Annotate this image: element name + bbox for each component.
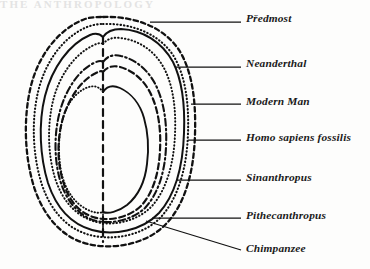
contour-modern-man [41, 29, 185, 232]
label-chimpanzee: Chimpanzee [246, 242, 306, 254]
contour-chimpanzee-right [103, 86, 148, 212]
contour-group [26, 17, 195, 246]
label-homo-sapiens-fossilis: Homo sapiens fossilis [246, 131, 351, 143]
contour-chimpanzee-left [59, 86, 103, 212]
figure-page: THE ANTHROPOLOGY [0, 0, 370, 269]
label-neanderthal: Neanderthal [246, 57, 307, 69]
label-modern-man: Modern Man [246, 95, 310, 107]
leader-line-chimpanzee [146, 221, 241, 250]
label-sinanthropus: Sinanthropus [246, 171, 312, 183]
label-predmost: Předmost [246, 12, 292, 24]
label-pithecanthropus: Pithecanthropus [246, 209, 326, 221]
contour-pithecanthropus [59, 66, 161, 219]
